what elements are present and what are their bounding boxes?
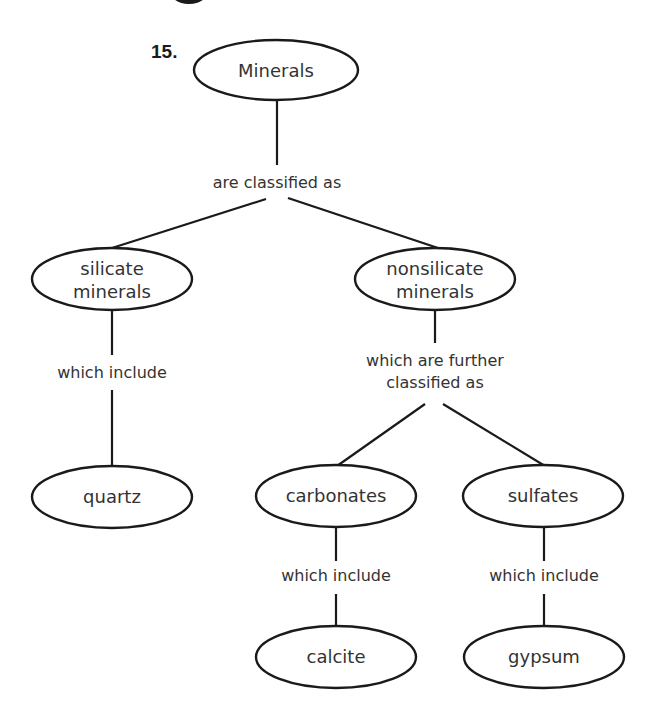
node-sulfates-label: sulfates <box>508 485 579 506</box>
node-silicate-line1: silicate <box>80 258 143 279</box>
node-carbonates: carbonates <box>256 465 416 527</box>
node-calcite-label: calcite <box>307 646 366 667</box>
connector-to-sulfates <box>443 404 545 466</box>
node-minerals: Minerals <box>194 40 358 100</box>
connector-to-silicate <box>112 199 266 248</box>
node-quartz-label: quartz <box>83 486 141 507</box>
connector-to-carbonates <box>337 404 425 466</box>
node-minerals-label: Minerals <box>238 60 314 81</box>
node-nonsilicate-line2: minerals <box>396 281 474 302</box>
question-number: 15. <box>151 41 177 62</box>
node-sulfates: sulfates <box>463 465 623 527</box>
node-gypsum: gypsum <box>464 626 624 688</box>
node-gypsum-label: gypsum <box>508 646 580 667</box>
link-silicate-which-include: which include <box>57 363 167 382</box>
node-silicate-minerals: silicate minerals <box>32 248 192 310</box>
link-sulfates-which-include: which include <box>489 566 599 585</box>
node-carbonates-label: carbonates <box>286 485 387 506</box>
node-calcite: calcite <box>256 626 416 688</box>
node-nonsilicate-minerals: nonsilicate minerals <box>355 248 515 310</box>
link-carbonates-which-include: which include <box>281 566 391 585</box>
node-nonsilicate-line1: nonsilicate <box>386 258 483 279</box>
previous-item-shape-cutoff <box>167 0 211 4</box>
node-silicate-line2: minerals <box>73 281 151 302</box>
node-quartz: quartz <box>32 466 192 528</box>
link-further-classified-line1: which are further <box>366 351 504 370</box>
link-further-classified-line2: classified as <box>386 373 483 392</box>
link-are-classified-as: are classified as <box>213 173 341 192</box>
connector-to-nonsilicate <box>288 198 438 248</box>
concept-map: 15. Minerals are classified as silicate … <box>0 0 645 708</box>
